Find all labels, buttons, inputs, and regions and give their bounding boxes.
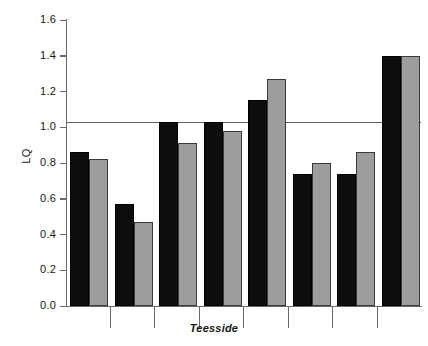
y-tick-mark [60,20,66,21]
y-tick-mark [60,163,66,164]
bar-grey-1 [89,159,108,306]
y-tick-mark [60,127,66,128]
y-tick-label: 0.2 [18,264,56,275]
y-tick-label: 0.4 [18,229,56,240]
bar-grey-7 [356,152,375,306]
y-tick-mark [60,270,66,271]
bar-black-8 [382,56,401,306]
y-tick-mark [60,91,66,92]
bar-chart: LQ 0.00.20.40.60.81.01.21.41.6 Teesside [0,0,428,346]
y-tick-mark [60,198,66,199]
y-tick-mark [60,55,66,56]
bar-grey-8 [401,56,420,306]
y-tick-label: 1.4 [18,50,56,61]
y-tick-label: 1.0 [18,121,56,132]
bar-black-6 [293,174,312,306]
reference-line-1.0 [67,122,421,123]
y-tick-label: 0.0 [18,300,56,311]
y-tick-label: 1.2 [18,86,56,97]
bar-grey-6 [312,163,331,306]
y-tick-mark [60,234,66,235]
y-tick-label: 1.6 [18,14,56,25]
y-tick-label: 0.8 [18,157,56,168]
bar-grey-5 [267,79,286,306]
bar-grey-2 [134,222,153,306]
bar-black-5 [248,100,267,306]
x-axis-title: Teesside [0,322,428,334]
bar-grey-3 [178,143,197,306]
y-tick-label: 0.6 [18,193,56,204]
bar-black-2 [115,204,134,306]
y-tick-mark [60,306,66,307]
y-axis-title: LQ [20,126,32,186]
bar-black-7 [337,174,356,306]
bar-black-3 [159,122,178,306]
bar-grey-4 [223,131,242,306]
bar-black-1 [70,152,89,306]
bar-black-4 [204,122,223,306]
y-axis-line [66,19,67,307]
